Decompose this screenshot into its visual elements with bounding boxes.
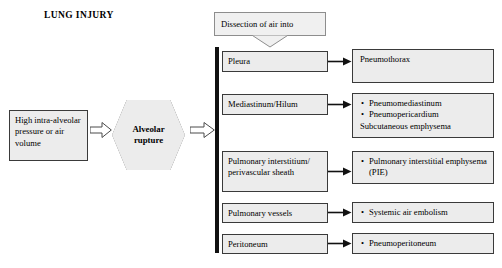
- outcome-item: Pneumoperitoneum: [369, 238, 488, 249]
- distribution-trunk-bar: [215, 47, 219, 253]
- callout-label: Dissection of air into: [221, 19, 293, 29]
- site-box-peritoneum: Peritoneum: [222, 234, 328, 254]
- site-box-pulmonary-interstitium: Pulmonary interstitium/ perivascular she…: [222, 151, 328, 192]
- page-title: LUNG INJURY: [44, 10, 114, 20]
- arrow-right-icon-row-5: [328, 239, 352, 248]
- outcome-item: Systemic air embolism: [369, 207, 488, 218]
- outcome-list: Pneumothorax: [358, 54, 488, 65]
- arrow-right-icon-row-3: [328, 167, 352, 176]
- callout-tail-icon: [252, 35, 288, 48]
- outcome-item: Pneumopericardium: [369, 109, 488, 120]
- site-label: Pulmonary vessels: [228, 208, 292, 218]
- outcome-item: Pulmonary interstitial emphysema (PIE): [369, 156, 488, 179]
- outcome-list: Pulmonary interstitial emphysema (PIE): [358, 156, 488, 179]
- site-label: Pulmonary interstitium/ perivascular she…: [228, 156, 310, 177]
- callout-banner: Dissection of air into: [214, 12, 326, 36]
- arrow-right-icon-row-2: [328, 100, 352, 109]
- source-box: High intra-alveolar pressure or air volu…: [9, 110, 88, 161]
- block-arrow-icon-rupture-to-trunk: [190, 122, 215, 138]
- outcome-list: Pneumomediastinum Pneumopericardium Subc…: [358, 98, 488, 132]
- alveolar-rupture-label-line1: Alveolar: [132, 124, 164, 134]
- site-label: Peritoneum: [228, 239, 268, 249]
- outcome-item: Subcutaneous emphysema: [360, 121, 488, 132]
- site-label: Mediastinum/Hilum: [228, 99, 298, 109]
- outcome-item: Pneumothorax: [360, 54, 488, 65]
- outcome-list: Pneumoperitoneum: [358, 238, 488, 249]
- site-label: Pleura: [228, 56, 250, 66]
- diagram-canvas: LUNG INJURY High intra-alveolar pressure…: [0, 0, 502, 268]
- outcome-box-pie: Pulmonary interstitial emphysema (PIE): [352, 151, 494, 184]
- block-arrow-icon-source-to-rupture: [90, 122, 112, 138]
- arrow-right-icon-row-1: [328, 57, 352, 66]
- alveolar-rupture-label-line2: rupture: [134, 135, 163, 145]
- outcome-box-air-embolism: Systemic air embolism: [352, 202, 494, 223]
- outcome-box-pneumothorax: Pneumothorax: [352, 49, 494, 83]
- outcome-box-pneumoperitoneum: Pneumoperitoneum: [352, 233, 494, 254]
- outcome-list: Systemic air embolism: [358, 207, 488, 218]
- site-box-pleura: Pleura: [222, 51, 328, 72]
- source-box-label: High intra-alveolar pressure or air volu…: [15, 115, 81, 148]
- alveolar-rupture-node: Alveolar rupture: [112, 100, 185, 170]
- site-box-pulmonary-vessels: Pulmonary vessels: [222, 203, 328, 223]
- outcome-box-mediastinum: Pneumomediastinum Pneumopericardium Subc…: [352, 93, 494, 138]
- arrow-right-icon-row-4: [328, 208, 352, 217]
- outcome-item: Pneumomediastinum: [369, 98, 488, 109]
- site-box-mediastinum-hilum: Mediastinum/Hilum: [222, 94, 328, 115]
